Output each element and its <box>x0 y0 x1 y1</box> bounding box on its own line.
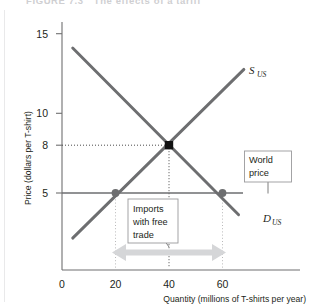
imports-callout-line-2: with free <box>132 217 168 227</box>
supply-at-world-price-marker <box>112 189 120 197</box>
x-tick-label-60: 60 <box>217 278 229 290</box>
demand-curve-label-main: D <box>262 212 271 224</box>
supply-curve-label: S US <box>249 64 266 79</box>
world-price-callout-line-2: price <box>249 168 269 178</box>
imports-callout-line-3: trade <box>133 230 154 240</box>
imports-callout: Imports with free trade <box>128 199 178 247</box>
x-tick-label-0: 0 <box>59 278 65 290</box>
supply-demand-chart: 5 8 10 15 0 20 40 60 Quantity (millions … <box>0 0 315 308</box>
demand-curve <box>73 48 239 215</box>
figure-root: FIGURE 7.3The effects of a tariff 5 8 10… <box>0 0 315 308</box>
y-axis-title: Price (dollars per T-shirt) <box>23 111 33 205</box>
no-trade-equilibrium-marker <box>165 141 173 149</box>
y-tick-label-5: 5 <box>42 187 48 199</box>
y-tick-label-8: 8 <box>42 139 48 151</box>
supply-curve-label-main: S <box>249 64 255 76</box>
imports-callout-line-1: Imports <box>133 204 164 214</box>
world-price-callout-line-1: World <box>249 155 273 165</box>
world-price-callout: World price <box>245 151 292 194</box>
demand-at-world-price-marker <box>219 189 227 197</box>
demand-curve-label: D US <box>262 212 281 227</box>
x-tick-label-40: 40 <box>163 278 175 290</box>
y-tick-label-10: 10 <box>36 107 48 119</box>
x-axis-title: Quantity (millions of T-shirts per year) <box>163 294 306 304</box>
supply-curve-label-sub: US <box>257 70 266 79</box>
y-tick-label-15: 15 <box>36 28 48 40</box>
demand-curve-label-sub: US <box>272 218 281 227</box>
x-tick-label-20: 20 <box>110 278 122 290</box>
